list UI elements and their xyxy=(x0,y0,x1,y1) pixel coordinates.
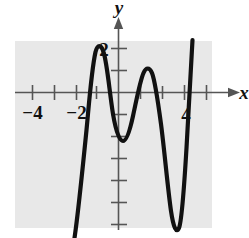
y-tick-label-2: 2 xyxy=(99,39,109,60)
graph-figure: −4 −2 4 2 y x xyxy=(0,0,249,238)
y-axis-label: y xyxy=(113,0,124,18)
x-tick-label-4: 4 xyxy=(181,104,191,125)
x-tick-label-minus4: −4 xyxy=(22,102,43,123)
x-axis-arrow-icon xyxy=(228,88,240,97)
x-tick-label-minus2: −2 xyxy=(66,102,86,123)
graph-svg: −4 −2 4 2 y x xyxy=(0,0,249,238)
y-axis-arrow-icon xyxy=(114,17,123,29)
x-axis-label: x xyxy=(238,82,249,103)
